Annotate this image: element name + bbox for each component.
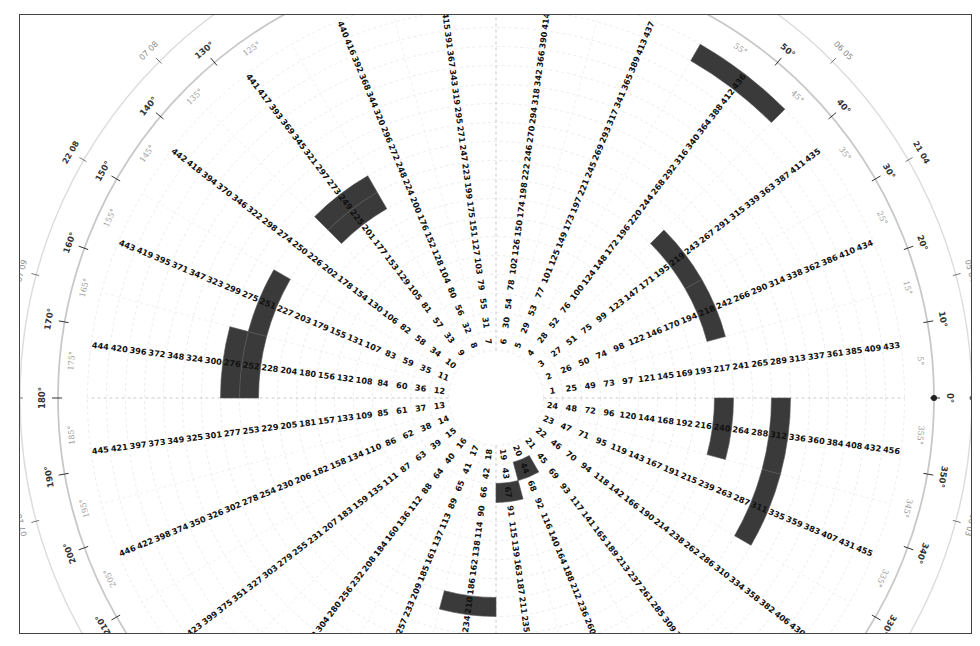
cell-number: 132 bbox=[336, 372, 354, 384]
cell-number: 69 bbox=[546, 466, 561, 481]
angle-label-major: 150° bbox=[93, 159, 113, 183]
cell-number: 23 bbox=[541, 413, 556, 427]
angle-label-major: 30° bbox=[881, 162, 898, 181]
cell-number: 344 bbox=[365, 90, 381, 110]
cell-number: 431 bbox=[837, 536, 857, 552]
cell-number: 197 bbox=[568, 195, 584, 215]
cell-number: 253 bbox=[242, 424, 261, 436]
cell-number: 43 bbox=[500, 467, 511, 480]
cell-number: 206 bbox=[293, 470, 313, 486]
zero-marker-icon bbox=[931, 395, 937, 401]
cell-number: 301 bbox=[204, 429, 223, 441]
cell-number: 52 bbox=[546, 315, 561, 330]
grid-ring bbox=[335, 237, 658, 560]
cell-number: 70 bbox=[564, 448, 579, 463]
cell-number: 318 bbox=[530, 87, 542, 106]
polar-plot: 1234567891011121314151617181920212223242… bbox=[20, 15, 972, 634]
angle-label-major: 330° bbox=[879, 613, 899, 634]
cell-number: 163 bbox=[512, 558, 524, 577]
cell-number: 101 bbox=[539, 265, 555, 285]
cell-number: 386 bbox=[820, 252, 840, 268]
cell-number: 149 bbox=[554, 230, 570, 250]
cell-number: 192 bbox=[675, 417, 693, 429]
angle-label-major: 210° bbox=[93, 613, 113, 634]
cell-number: 122 bbox=[627, 332, 647, 348]
cell-number: 84 bbox=[377, 377, 390, 388]
cell-number: 57 bbox=[431, 315, 446, 330]
cell-number: 193 bbox=[694, 365, 713, 377]
cell-number: 42 bbox=[480, 467, 491, 480]
cell-number: 366 bbox=[535, 50, 547, 69]
cell-number: 61 bbox=[396, 405, 409, 416]
cell-number: 270 bbox=[525, 125, 537, 144]
cell-number: 317 bbox=[604, 107, 620, 127]
cell-number: 17 bbox=[467, 443, 481, 458]
cell-number: 88 bbox=[419, 481, 434, 496]
cell-number: 296 bbox=[379, 125, 395, 145]
cell-number: 41 bbox=[460, 461, 474, 476]
cell-number: 420 bbox=[110, 342, 129, 354]
cell-number: 422 bbox=[135, 536, 155, 552]
angle-label-major: 50° bbox=[778, 41, 797, 59]
cell-number: 384 bbox=[826, 437, 845, 449]
cell-number: 204 bbox=[280, 365, 299, 377]
cell-number: 138 bbox=[470, 539, 482, 558]
cell-number: 11 bbox=[436, 369, 451, 383]
cell-number: 269 bbox=[590, 142, 606, 162]
cell-number: 395 bbox=[153, 252, 173, 268]
cell-number: 20 bbox=[511, 443, 525, 458]
cell-number: 53 bbox=[526, 303, 540, 318]
cell-number: 91 bbox=[505, 505, 516, 518]
angle-label-minor: 15° bbox=[901, 280, 913, 296]
cell-number: 60 bbox=[396, 380, 409, 391]
cell-number: 419 bbox=[135, 245, 155, 261]
cell-number: 234 bbox=[460, 615, 472, 634]
cell-number: 133 bbox=[336, 412, 355, 424]
cell-number: 67 bbox=[503, 486, 514, 499]
cell-number: 114 bbox=[473, 520, 485, 539]
cell-number: 440 bbox=[335, 20, 351, 40]
time-label: 05 04 bbox=[963, 259, 972, 283]
cell-number: 397 bbox=[129, 439, 148, 451]
cell-number: 287 bbox=[732, 492, 752, 508]
cell-number: 76 bbox=[558, 300, 573, 315]
cell-number: 7 bbox=[483, 338, 494, 345]
cell-number: 341 bbox=[612, 90, 628, 110]
cell-number: 115 bbox=[507, 521, 519, 540]
cell-number: 85 bbox=[377, 407, 390, 418]
cell-number: 128 bbox=[430, 248, 446, 268]
cell-number: 81 bbox=[419, 300, 434, 315]
cell-number: 142 bbox=[607, 481, 627, 499]
cell-number: 110 bbox=[363, 441, 383, 457]
cell-number: 187 bbox=[515, 577, 527, 596]
cell-number: 2 bbox=[544, 370, 553, 381]
cell-number: 235 bbox=[520, 615, 532, 634]
cell-number: 299 bbox=[223, 281, 243, 297]
cell-number: 174 bbox=[515, 200, 527, 219]
angle-label-major: 20° bbox=[915, 233, 930, 252]
angle-label-minor: 345° bbox=[901, 498, 915, 519]
cell-number: 325 bbox=[185, 432, 204, 444]
angle-label-major: 180° bbox=[37, 387, 47, 409]
cell-number: 198 bbox=[517, 181, 529, 200]
cell-number: 65 bbox=[453, 478, 467, 493]
cell-number: 230 bbox=[276, 477, 296, 493]
cell-number: 338 bbox=[785, 266, 805, 282]
cell-number: 95 bbox=[594, 435, 609, 449]
cell-number: 162 bbox=[468, 558, 480, 576]
cell-number: 24 bbox=[546, 400, 559, 411]
cell-number: 102 bbox=[507, 257, 519, 275]
angle-label-minor: 35° bbox=[837, 145, 853, 162]
cell-number: 36 bbox=[414, 382, 427, 393]
cell-number: 263 bbox=[714, 485, 734, 501]
time-label: 22 08 bbox=[61, 139, 82, 166]
cell-number: 125 bbox=[546, 247, 562, 267]
cell-number: 80 bbox=[446, 285, 460, 300]
cell-number: 143 bbox=[627, 448, 647, 464]
cell-number: 348 bbox=[167, 350, 186, 362]
cell-number: 27 bbox=[549, 344, 564, 359]
cell-number: 314 bbox=[767, 274, 787, 290]
cell-number: 9 bbox=[456, 347, 468, 358]
cell-number: 103 bbox=[473, 257, 485, 276]
cell-number: 83 bbox=[383, 348, 398, 362]
